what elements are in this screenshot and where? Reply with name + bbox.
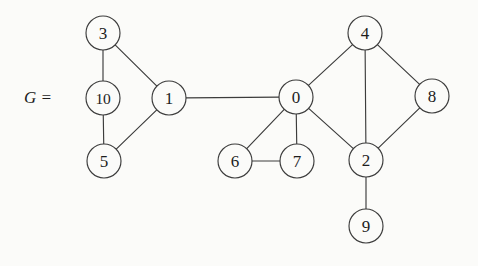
edge-layer bbox=[103, 45, 420, 209]
graph-node-0[interactable]: 0 bbox=[279, 80, 313, 114]
graph-edge-8-2 bbox=[378, 108, 420, 148]
graph-node-label-6: 6 bbox=[231, 152, 240, 171]
graph-edge-0-2 bbox=[309, 108, 354, 148]
graph-edge-5-1 bbox=[116, 110, 157, 149]
node-layer: 310150486729 bbox=[86, 16, 449, 243]
graph-node-2[interactable]: 2 bbox=[349, 143, 383, 177]
graph-node-6[interactable]: 6 bbox=[218, 144, 252, 178]
graph-edge-4-8 bbox=[377, 45, 419, 85]
graph-figure: 310150486729 G = bbox=[0, 0, 478, 266]
graph-edge-0-6 bbox=[247, 109, 285, 148]
graph-node-label-0: 0 bbox=[292, 88, 301, 107]
graph-edge-3-1 bbox=[115, 45, 157, 86]
graph-node-8[interactable]: 8 bbox=[415, 79, 449, 113]
graph-node-3[interactable]: 3 bbox=[86, 16, 120, 50]
graph-node-5[interactable]: 5 bbox=[87, 144, 121, 178]
graph-node-label-1: 1 bbox=[165, 89, 174, 108]
graph-canvas: 310150486729 G = bbox=[0, 0, 478, 266]
graph-node-label-9: 9 bbox=[362, 217, 371, 236]
graph-node-label-10: 10 bbox=[95, 90, 111, 107]
graph-node-10[interactable]: 10 bbox=[86, 81, 120, 115]
graph-edge-1-0 bbox=[186, 97, 279, 98]
graph-node-label-4: 4 bbox=[361, 24, 370, 43]
graph-node-label-2: 2 bbox=[362, 151, 371, 170]
graph-node-label-3: 3 bbox=[99, 24, 108, 43]
graph-edge-0-4 bbox=[308, 45, 352, 86]
graph-node-4[interactable]: 4 bbox=[348, 16, 382, 50]
graph-node-9[interactable]: 9 bbox=[349, 209, 383, 243]
graph-node-label-5: 5 bbox=[100, 152, 109, 171]
graph-name-label: G = bbox=[24, 88, 52, 107]
graph-node-label-7: 7 bbox=[293, 152, 302, 171]
graph-node-label-8: 8 bbox=[428, 87, 437, 106]
graph-node-1[interactable]: 1 bbox=[152, 81, 186, 115]
graph-edge-4-2 bbox=[365, 50, 366, 143]
graph-node-7[interactable]: 7 bbox=[280, 144, 314, 178]
